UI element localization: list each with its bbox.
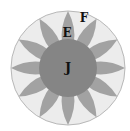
label-f: F — [80, 11, 89, 25]
label-j: J — [64, 60, 71, 75]
sunflower-diagram: J E F — [0, 0, 130, 131]
label-e: E — [62, 26, 71, 40]
